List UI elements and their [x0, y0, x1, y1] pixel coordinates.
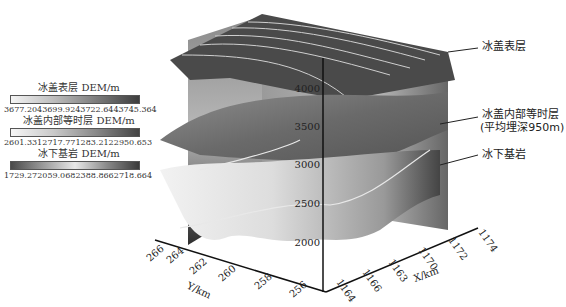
colorbar-bar [10, 161, 140, 170]
colorbar-internal: 冰盖内部等时层 DEM/m 2601.331 2717.771 283.212 … [4, 115, 154, 148]
annotation-bedrock: 冰下基岩 [482, 148, 526, 161]
colorbar-bar [10, 128, 140, 137]
annotation-surface: 冰盖表层 [482, 40, 526, 53]
colorbar-bar [10, 95, 140, 104]
colorbar-tick: 2950.653 [114, 138, 152, 148]
colorbar-bedrock: 冰下基岩 DEM/m 1729.27 2059.068 2388.866 271… [4, 148, 154, 181]
colorbar-tick: 3722.644 [80, 105, 118, 115]
x-tick: 1164 [334, 277, 358, 304]
y-tick: 258 [252, 271, 274, 292]
z-tick: 3500 [295, 121, 320, 132]
y-tick: 266 [144, 243, 166, 264]
colorbar-tick: 3677.204 [4, 105, 42, 115]
colorbar-title: 冰盖内部等时层 DEM/m [4, 115, 154, 127]
colorbar-tick: 3745.364 [119, 105, 157, 115]
x-tick: 1174 [476, 227, 500, 254]
annotation-internal-depth: (平均埋深950m) [480, 121, 564, 134]
y-axis-label: Y/km [184, 279, 213, 300]
colorbar-tick: 2388.866 [76, 171, 114, 181]
z-tick: 4000 [295, 83, 320, 94]
y-tick: 262 [187, 256, 209, 277]
colorbar-tick: 2059.068 [37, 171, 75, 181]
colorbar-surface: 冰盖表层 DEM/m 3677.204 3699.924 3722.644 37… [4, 82, 154, 115]
z-tick: 2500 [295, 198, 320, 209]
colorbar-title: 冰盖表层 DEM/m [4, 82, 154, 94]
colorbar-tick: 1729.27 [4, 171, 37, 181]
z-tick: 2000 [295, 237, 320, 248]
y-tick: 260 [216, 263, 238, 284]
x-tick: 1166 [360, 267, 384, 294]
colorbar-tick: 2601.331 [4, 138, 42, 148]
x-axis-label: X/km [412, 264, 441, 283]
annotation-internal: 冰盖内部等时层 [482, 108, 559, 121]
colorbar-tick: 3699.924 [42, 105, 80, 115]
colorbar-title: 冰下基岩 DEM/m [4, 148, 154, 160]
colorbar-tick: 283.212 [81, 138, 114, 148]
x-tick: 1163 [386, 257, 410, 284]
colorbar-tick: 2718.664 [114, 171, 152, 181]
z-tick: 3000 [295, 159, 320, 170]
colorbar-tick: 2717.771 [42, 138, 80, 148]
x-tick: 1172 [446, 235, 470, 262]
